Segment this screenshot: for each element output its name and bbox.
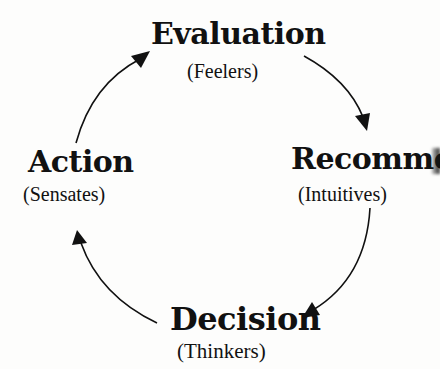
node-evaluation-subtitle: (Feelers) — [187, 60, 258, 83]
node-recommendation-title: Recommendation — [291, 141, 440, 176]
node-action-title: Action — [28, 144, 134, 179]
node-evaluation-title: Evaluation — [151, 16, 325, 51]
node-decision-title: Decision — [170, 300, 321, 338]
node-recommendation-subtitle: (Intuitives) — [298, 183, 387, 206]
node-decision-subtitle: (Thinkers) — [177, 339, 266, 364]
cycle-diagram: Evaluation (Feelers) Recommendation (Int… — [0, 0, 440, 369]
page-edge-shadow — [432, 148, 440, 174]
arrow-action-to-evaluation — [76, 51, 150, 143]
arrow-evaluation-to-recommendation — [304, 56, 370, 131]
node-action-subtitle: (Sensates) — [23, 183, 105, 206]
arrow-decision-to-action — [72, 230, 157, 323]
